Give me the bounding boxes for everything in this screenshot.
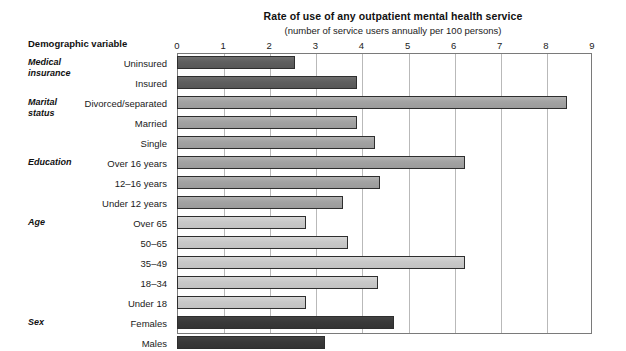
- category-label: Insured: [135, 78, 167, 89]
- category-label: Males: [142, 338, 167, 349]
- bar-12-16-years: [177, 176, 380, 189]
- category-label: Single: [141, 138, 167, 149]
- x-tick-label-7: 7: [497, 40, 502, 51]
- x-tick-label-3: 3: [313, 40, 318, 51]
- category-label-row: Under 12 years: [0, 193, 173, 213]
- category-label: Under 12 years: [102, 198, 167, 209]
- group-label-sex: Sex: [28, 317, 44, 328]
- x-tick-label-6: 6: [451, 40, 456, 51]
- group-label-line: status: [28, 108, 57, 119]
- bar-under-12-years: [177, 196, 343, 209]
- bar-row: [177, 53, 592, 73]
- category-label-row: Single: [0, 133, 173, 153]
- category-label: Divorced/separated: [85, 98, 167, 109]
- category-label: 12–16 years: [115, 178, 167, 189]
- chart-title: Rate of use of any outpatient mental hea…: [160, 10, 626, 23]
- bar-18-34: [177, 276, 378, 289]
- x-tick-label-0: 0: [174, 40, 179, 51]
- group-label-education: Education: [28, 157, 72, 168]
- bar-row: [177, 73, 592, 93]
- bar-35-49: [177, 256, 465, 269]
- x-axis-tick-labels: 0123456789: [0, 40, 626, 54]
- category-label-row: 18–34: [0, 273, 173, 293]
- x-tick-label-2: 2: [267, 40, 272, 51]
- bar-married: [177, 116, 357, 129]
- category-label-row: Uninsured: [0, 53, 173, 73]
- category-label: Over 16 years: [107, 158, 167, 169]
- category-label-row: Over 65: [0, 213, 173, 233]
- bar-uninsured: [177, 56, 295, 69]
- bar-single: [177, 136, 375, 149]
- bar-rows: [177, 53, 592, 334]
- category-label-row: Males: [0, 333, 173, 351]
- category-label-row: Under 18: [0, 293, 173, 313]
- chart-subtitle: (number of service users annually per 10…: [160, 24, 626, 37]
- category-label-row: Over 16 years: [0, 153, 173, 173]
- bar-males: [177, 336, 325, 349]
- group-label-line: insurance: [28, 68, 71, 79]
- bar-insured: [177, 76, 357, 89]
- category-label: Females: [131, 318, 167, 329]
- bar-females: [177, 316, 394, 329]
- category-label-row: Females: [0, 313, 173, 333]
- bar-row: [177, 293, 592, 313]
- category-labels: UninsuredInsuredDivorced/separatedMarrie…: [0, 53, 173, 351]
- group-label-medical: Medicalinsurance: [28, 57, 71, 79]
- bar-50-65: [177, 236, 348, 249]
- group-label-line: Marital: [28, 97, 57, 108]
- category-label: Married: [135, 118, 167, 129]
- bar-row: [177, 173, 592, 193]
- x-tick-label-4: 4: [359, 40, 364, 51]
- bar-row: [177, 213, 592, 233]
- category-label-row: 35–49: [0, 253, 173, 273]
- category-label-row: Insured: [0, 73, 173, 93]
- group-label-age: Age: [28, 217, 45, 228]
- x-tick-label-1: 1: [220, 40, 225, 51]
- category-label: Under 18: [128, 298, 167, 309]
- bar-over-16-years: [177, 156, 465, 169]
- bar-row: [177, 133, 592, 153]
- bar-row: [177, 313, 592, 333]
- group-label-line: Medical: [28, 57, 71, 68]
- category-label: Over 65: [133, 218, 167, 229]
- bar-row: [177, 113, 592, 133]
- bar-under-18: [177, 296, 306, 309]
- bar-row: [177, 153, 592, 173]
- group-label-marital: Maritalstatus: [28, 97, 57, 119]
- bar-row: [177, 273, 592, 293]
- bar-row: [177, 333, 592, 351]
- category-label-row: Divorced/separated: [0, 93, 173, 113]
- x-tick-label-5: 5: [405, 40, 410, 51]
- bar-row: [177, 253, 592, 273]
- bar-row: [177, 233, 592, 253]
- group-label-line: Education: [28, 157, 72, 168]
- chart-title-block: Rate of use of any outpatient mental hea…: [160, 10, 626, 37]
- bar-divorced-separated: [177, 96, 567, 109]
- chart-root: Rate of use of any outpatient mental hea…: [0, 0, 626, 351]
- x-tick-label-8: 8: [543, 40, 548, 51]
- category-label-row: 12–16 years: [0, 173, 173, 193]
- category-label-row: Married: [0, 113, 173, 133]
- group-label-line: Age: [28, 217, 45, 228]
- x-tick-label-9: 9: [589, 40, 594, 51]
- bar-over-65: [177, 216, 306, 229]
- category-label: Uninsured: [124, 58, 167, 69]
- category-label: 18–34: [141, 278, 167, 289]
- category-label-row: 50–65: [0, 233, 173, 253]
- category-label: 35–49: [141, 258, 167, 269]
- group-label-line: Sex: [28, 317, 44, 328]
- bar-row: [177, 193, 592, 213]
- bar-row: [177, 93, 592, 113]
- category-label: 50–65: [141, 238, 167, 249]
